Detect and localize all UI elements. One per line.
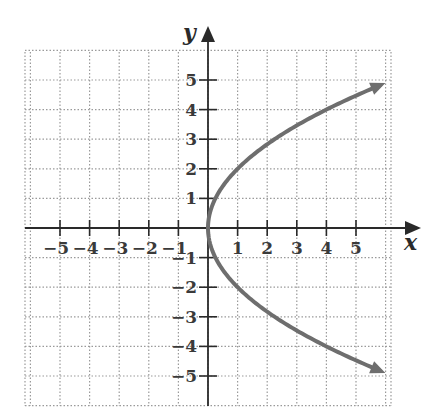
graph: −5−4−3−2−112345−5−4−3−2−112345 x y bbox=[0, 0, 439, 420]
y-tick-label: 2 bbox=[185, 159, 197, 179]
y-axis-arrow-icon bbox=[201, 26, 215, 42]
y-tick-label: 3 bbox=[185, 129, 197, 149]
x-tick-label: −5 bbox=[43, 238, 69, 258]
x-tick-label: −2 bbox=[132, 238, 158, 258]
axes bbox=[25, 26, 421, 406]
y-tick-label: 5 bbox=[185, 70, 197, 90]
y-tick-label: −4 bbox=[171, 336, 197, 356]
x-tick-label: 2 bbox=[261, 238, 273, 258]
x-tick-label: 4 bbox=[320, 238, 332, 258]
y-tick-label: −3 bbox=[171, 307, 197, 327]
y-tick-label: −5 bbox=[171, 366, 197, 386]
y-tick-label: 4 bbox=[185, 100, 197, 120]
x-tick-label: 1 bbox=[232, 238, 244, 258]
y-tick-label: −2 bbox=[171, 277, 197, 297]
y-tick-label: 1 bbox=[185, 188, 197, 208]
x-tick-label: 3 bbox=[291, 238, 303, 258]
x-axis-label: x bbox=[403, 229, 418, 255]
x-tick-label: −4 bbox=[73, 238, 99, 258]
x-tick-label: −3 bbox=[102, 238, 128, 258]
x-tick-label: 5 bbox=[350, 238, 362, 258]
y-tick-label: −1 bbox=[171, 248, 197, 268]
y-axis-label: y bbox=[182, 19, 198, 45]
